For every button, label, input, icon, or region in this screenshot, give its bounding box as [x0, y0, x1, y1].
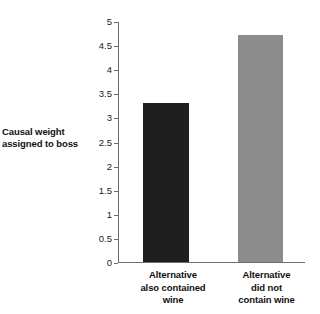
bar-chart: Causal weight assigned to boss 00.511.52… [0, 0, 320, 314]
y-tick-label: 3.5 [99, 88, 112, 99]
y-tick-label: 0 [107, 257, 112, 268]
y-tick-label: 2 [107, 161, 112, 172]
y-tick-mark [114, 191, 118, 192]
plot-area: 00.511.522.533.544.55 [118, 22, 305, 263]
y-axis-title: Causal weight assigned to boss [2, 126, 94, 150]
category-0-line-2: also contained [120, 282, 226, 295]
y-tick-mark [114, 22, 118, 23]
y-axis-title-line-1: Causal weight [2, 126, 94, 138]
y-tick-mark [114, 70, 118, 71]
y-tick-mark [114, 46, 118, 47]
x-axis-line [118, 262, 305, 263]
category-1-line-3: contain wine [215, 294, 318, 307]
category-1-line-2: did not [215, 282, 318, 295]
y-axis-title-line-2: assigned to boss [2, 138, 94, 150]
y-tick-label: 4 [107, 64, 112, 75]
y-tick-mark [114, 263, 118, 264]
category-0-line-3: wine [120, 294, 226, 307]
y-tick-mark [114, 167, 118, 168]
category-1-line-1: Alternative [215, 269, 318, 282]
y-tick-label: 0.5 [99, 233, 112, 244]
y-tick-label: 1.5 [99, 185, 112, 196]
y-tick-label: 3 [107, 112, 112, 123]
y-tick-label: 1 [107, 209, 112, 220]
y-tick-mark [114, 239, 118, 240]
y-axis-line [118, 22, 119, 263]
y-tick-mark [114, 215, 118, 216]
x-axis-category-label-0: Alternative also contained wine [120, 269, 226, 307]
y-tick-label: 5 [107, 16, 112, 27]
bar-alternative-also-contained-wine [143, 103, 189, 262]
y-tick-mark [114, 143, 118, 144]
category-0-line-1: Alternative [120, 269, 226, 282]
y-tick-label: 4.5 [99, 40, 112, 51]
bar-alternative-did-not-contain-wine [238, 35, 283, 262]
y-tick-mark [114, 94, 118, 95]
x-axis-category-label-1: Alternative did not contain wine [215, 269, 318, 307]
y-tick-label: 2.5 [99, 137, 112, 148]
y-tick-mark [114, 118, 118, 119]
